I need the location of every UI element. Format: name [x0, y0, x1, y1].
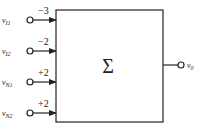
gain-label: +2 — [38, 98, 49, 109]
input-terminal — [27, 17, 33, 23]
input-terminal — [27, 79, 33, 85]
gain-label: −3 — [38, 5, 49, 16]
input-vN1: vN1 +2 — [2, 67, 56, 88]
svg-text:vN2: vN2 — [2, 109, 13, 119]
svg-text:v0: v0 — [187, 61, 194, 71]
output-terminal — [178, 62, 184, 68]
input-vN2: vN2 +2 — [2, 98, 56, 119]
input-terminal — [27, 110, 33, 116]
svg-text:vN1: vN1 — [2, 78, 13, 88]
svg-text:vI1: vI1 — [2, 16, 11, 26]
gain-label: +2 — [38, 67, 49, 78]
sigma-symbol: Σ — [102, 55, 114, 77]
input-terminal — [27, 48, 33, 54]
input-vI1: vI1 −3 — [2, 5, 56, 26]
input-vI2: vI2 −2 — [2, 36, 56, 57]
svg-text:vI2: vI2 — [2, 47, 11, 57]
summer-diagram: Σ vI1 −3 vI2 −2 vN1 +2 vN2 +2 v0 — [0, 0, 207, 130]
output-v0: v0 — [163, 61, 194, 71]
gain-label: −2 — [38, 36, 49, 47]
